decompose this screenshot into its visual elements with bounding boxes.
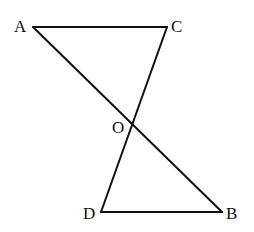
label-c: C <box>171 17 182 36</box>
segment-cd <box>101 27 167 212</box>
geometry-diagram: A C O D B <box>0 0 254 232</box>
label-b: B <box>226 204 237 223</box>
segment-ab <box>33 27 222 212</box>
label-a: A <box>14 17 27 36</box>
label-d: D <box>83 204 95 223</box>
label-o: O <box>112 118 124 137</box>
